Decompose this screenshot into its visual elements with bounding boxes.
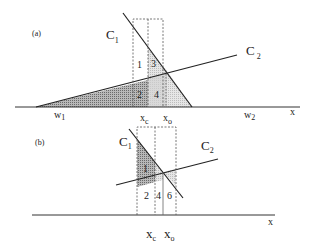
panel-tag-b: (b) xyxy=(35,138,45,147)
region-6-label-b: 6 xyxy=(167,190,172,201)
c1-label-a: C1 xyxy=(106,27,119,45)
xo-label-a: xo xyxy=(163,112,172,126)
panel-tag-a: (a) xyxy=(32,29,41,38)
w2-label: w2 xyxy=(244,109,255,122)
c2-label-b: C2 xyxy=(201,138,214,155)
region-2-label-a: 2 xyxy=(137,89,142,100)
c1-label-b: C1 xyxy=(119,134,132,151)
diagram: (a) C1 C2 1 2 3 4 w1 w2 x xc xo (b) C1 C… xyxy=(0,0,314,250)
x-axis-label-b: x xyxy=(268,216,273,227)
panel-b: (b) C1 C2 1 2 4 6 x xc xo xyxy=(32,127,275,243)
region-small-shade-b xyxy=(155,162,163,182)
region-1-label-b: 1 xyxy=(143,163,148,174)
panel-a: (a) C1 C2 1 2 3 4 w1 w2 x xc xo xyxy=(15,13,300,126)
region-4-label-a: 4 xyxy=(154,89,159,100)
x-axis-label-a: x xyxy=(290,106,295,117)
curve-c2-b xyxy=(116,159,218,185)
w1-label: w1 xyxy=(54,109,65,122)
c2-label-a: C2 xyxy=(246,43,261,61)
region-3-label-a: 3 xyxy=(151,58,156,69)
region-4-label-b: 4 xyxy=(156,190,161,201)
region-2-label-b: 2 xyxy=(144,190,149,201)
region-1-label-a: 1 xyxy=(137,59,142,70)
xo-label-b: xo xyxy=(164,226,175,243)
xc-label-a: xc xyxy=(140,112,149,126)
xc-label-b: xc xyxy=(146,226,157,243)
